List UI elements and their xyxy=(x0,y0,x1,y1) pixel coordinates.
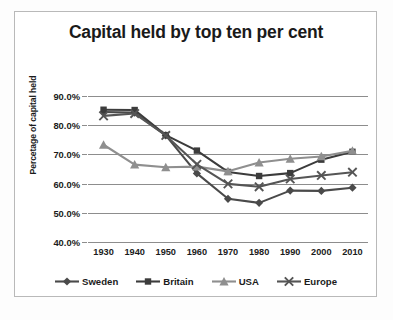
legend-item-sweden[interactable]: Sweden xyxy=(54,276,118,287)
legend-marker-cross-icon xyxy=(276,276,302,287)
gridline xyxy=(88,125,368,126)
chart-legend: SwedenBritainUSAEurope xyxy=(24,272,367,290)
x-axis-tick-label: 1930 xyxy=(93,247,113,257)
y-axis-tick xyxy=(82,154,87,155)
y-axis-tick-label: 80.0% xyxy=(53,120,80,131)
gridline xyxy=(88,96,368,97)
x-axis-tick-label: 1970 xyxy=(218,247,238,257)
x-axis-line xyxy=(88,242,368,243)
page-title: Capital held by top ten per cent xyxy=(30,22,362,42)
legend-marker-triangle-icon xyxy=(211,276,237,287)
y-axis-tick-label: 60.0% xyxy=(53,178,80,189)
legend-label: USA xyxy=(239,276,259,287)
y-axis-tick xyxy=(82,213,87,214)
legend-item-britain[interactable]: Britain xyxy=(135,276,193,287)
x-axis-tick-label: 1950 xyxy=(156,247,176,257)
legend-label: Britain xyxy=(163,276,193,287)
x-axis-tick-label: 1980 xyxy=(249,247,269,257)
y-axis-tick-label: 70.0% xyxy=(53,149,80,160)
legend-item-europe[interactable]: Europe xyxy=(276,276,337,287)
x-axis-tick-label: 2000 xyxy=(311,247,331,257)
legend-marker-diamond-icon xyxy=(54,276,80,287)
gridline xyxy=(88,184,368,185)
y-axis-title: Percetage of capital held xyxy=(28,50,38,200)
y-axis-tick xyxy=(82,125,87,126)
y-axis-tick xyxy=(82,184,87,185)
y-axis-tick-label: 40.0% xyxy=(53,237,80,248)
legend-label: Europe xyxy=(304,276,337,287)
x-axis-tick-label: 2010 xyxy=(342,247,362,257)
gridline xyxy=(88,213,368,214)
legend-item-usa[interactable]: USA xyxy=(211,276,259,287)
legend-label: Sweden xyxy=(82,276,118,287)
y-axis-tick-label: 90.0% xyxy=(53,91,80,102)
plot-area: 90.0%80.0%70.0%60.0%50.0%40.0% xyxy=(88,96,368,242)
x-axis-tick-label: 1940 xyxy=(124,247,144,257)
chart-page: Capital held by top ten per cent Perceta… xyxy=(0,0,393,320)
y-axis-tick xyxy=(82,96,87,97)
x-axis-tick-label: 1960 xyxy=(187,247,207,257)
x-axis-tick-label: 1990 xyxy=(280,247,300,257)
y-axis-tick xyxy=(82,242,87,243)
gridline xyxy=(88,154,368,155)
y-axis-tick-label: 50.0% xyxy=(53,207,80,218)
legend-marker-square-icon xyxy=(135,276,161,287)
